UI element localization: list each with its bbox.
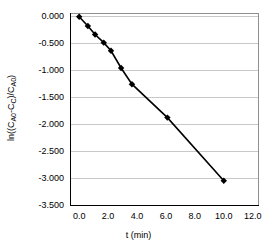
data-series-line [79,17,224,181]
y-tick-label: -3.500 [10,201,64,210]
gridlines [71,17,259,206]
y-tick-label: -1.500 [10,93,64,102]
y-tick-label: -2.000 [10,120,64,129]
y-axis-title-sub3: A0 [10,78,17,87]
y-axis-title-prefix: ln((C [6,122,16,142]
plot-frame [71,13,259,206]
y-tick-label: 0.000 [10,12,64,21]
y-axis-title-mid1: -C [6,104,16,114]
y-tick-label: -0.500 [10,39,64,48]
x-tick-label: 12.0 [233,212,273,221]
series-line [79,17,224,181]
y-tick-label: -1.000 [10,66,64,75]
y-axis-title-sub2: C [10,98,17,103]
chart-container: 0.000-0.500-1.000-1.500-2.000-2.500-3.00… [0,0,277,249]
y-axis-title: ln((CA0-CC)/CA0) [6,18,16,198]
y-tick-label: -2.500 [10,147,64,156]
y-axis-title-sub1: A0 [10,113,17,122]
y-axis-title-mid2: )/C [6,86,16,98]
x-axis-title: t (min) [0,230,277,240]
y-tick-label: -3.000 [10,174,64,183]
